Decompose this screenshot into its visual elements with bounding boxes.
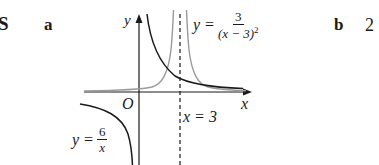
part-b-label: b bbox=[334, 16, 343, 33]
curve1-fraction: 6 x bbox=[97, 125, 108, 154]
graph bbox=[0, 0, 379, 165]
part-b-answer: 2 bbox=[365, 16, 374, 34]
curve2-fraction: 3 (x − 3)2 bbox=[218, 10, 259, 40]
asymptote-label: x = 3 bbox=[183, 109, 217, 125]
y-axis-arrow-icon bbox=[136, 14, 143, 23]
curve1-lhs: y = bbox=[72, 132, 94, 148]
curve2-lhs: y = bbox=[193, 17, 215, 33]
curve2-equation: y = 3 (x − 3)2 bbox=[193, 10, 259, 40]
origin-label: O bbox=[122, 96, 134, 112]
x-axis-label: x bbox=[241, 96, 248, 112]
y-axis-label: y bbox=[124, 13, 131, 28]
part-a-label: a bbox=[44, 16, 53, 33]
curve1-equation: y = 6 x bbox=[72, 125, 107, 154]
section-label: S bbox=[0, 14, 9, 33]
